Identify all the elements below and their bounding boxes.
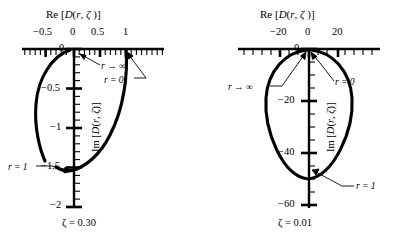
figure-root: Re [D(r, ζ )] −0.5 0 0.5 1 0 −0.5 −1 −1.… xyxy=(0,0,416,238)
panel-zeta-0-01: Re [D(r, ζ )] −20 0 20 0 −20 −40 −60 Im … xyxy=(208,0,416,238)
panel-zeta-0-30: Re [D(r, ζ )] −0.5 0 0.5 1 0 −0.5 −1 −1.… xyxy=(0,0,208,238)
panel-caption: ζ = 0.01 xyxy=(278,218,312,229)
panel-caption: ζ = 0.30 xyxy=(62,218,96,229)
panel-right-leaders xyxy=(208,0,416,238)
panel-left-leaders xyxy=(0,0,208,238)
